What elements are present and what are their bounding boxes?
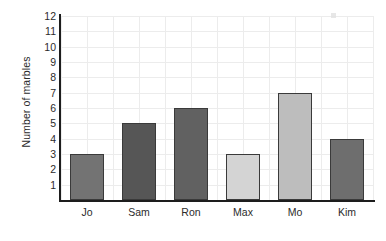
y-axis-tick-label: 11 xyxy=(34,26,56,37)
y-axis-tick-label: 5 xyxy=(34,118,56,129)
y-axis-title: Number of marbles xyxy=(20,32,32,172)
bar xyxy=(278,93,312,200)
bar xyxy=(70,154,104,200)
y-axis-tick-label: 12 xyxy=(34,11,56,22)
x-axis-tick-label: Max xyxy=(233,206,253,218)
bar xyxy=(226,154,260,200)
x-axis-tick-label: Mo xyxy=(288,206,303,218)
y-axis-tick-label: 8 xyxy=(34,72,56,83)
x-axis-tick-label: Sam xyxy=(128,206,150,218)
y-axis-tick-label: 1 xyxy=(34,179,56,190)
bar-chart: Number of marbles 123456789101112 JoSamR… xyxy=(0,0,386,241)
x-axis-tick-label: Ron xyxy=(181,206,200,218)
bar xyxy=(174,108,208,200)
y-axis-tick-label: 7 xyxy=(34,87,56,98)
y-axis-tick-label: 2 xyxy=(34,164,56,175)
scan-artifact xyxy=(331,13,336,18)
x-axis-tick-label: Jo xyxy=(81,206,92,218)
y-axis-tick-label: 4 xyxy=(34,133,56,144)
x-axis-tick-label: Kim xyxy=(338,206,356,218)
bar xyxy=(330,139,364,200)
y-axis-tick-label: 6 xyxy=(34,103,56,114)
y-axis-tick-label: 9 xyxy=(34,57,56,68)
y-axis-tick-label: 10 xyxy=(34,41,56,52)
bar xyxy=(122,123,156,200)
y-axis-tick-label: 3 xyxy=(34,149,56,160)
y-axis-tick-labels: 123456789101112 xyxy=(34,0,56,241)
gridline-vertical xyxy=(373,16,374,200)
x-axis-line xyxy=(59,200,375,202)
x-axis-tick-labels: JoSamRonMaxMoKim xyxy=(61,206,373,226)
bars-layer xyxy=(61,16,373,200)
